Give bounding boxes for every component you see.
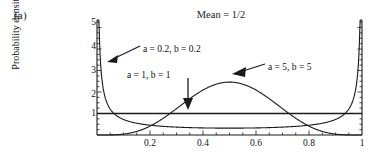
y-tick-label-2: 2 bbox=[82, 89, 96, 99]
y-axis-label-text: Probability density bbox=[10, 0, 21, 70]
density-curve-5 bbox=[97, 82, 362, 135]
arrow-head-beta-0-2 bbox=[107, 55, 118, 63]
x-tick-label-0-8: 0.8 bbox=[294, 138, 324, 148]
y-axis-label: Probability density f(x) bbox=[10, 0, 21, 84]
y-tick-label-1: 1 bbox=[82, 108, 96, 118]
x-tick-label-0-6: 0.6 bbox=[241, 138, 271, 148]
x-tick-label-1: 1 bbox=[347, 138, 377, 148]
y-tick-label-3: 3 bbox=[82, 65, 96, 75]
annot-beta-5: a = 5, b = 5 bbox=[268, 62, 311, 72]
y-tick-label-4: 4 bbox=[82, 41, 96, 51]
annot-beta-1: a = 1, b = 1 bbox=[127, 70, 170, 80]
y-tick-label-5: 5 bbox=[82, 17, 96, 27]
chart-title: Mean = 1/2 bbox=[0, 9, 382, 20]
arrow-line-beta-0-2 bbox=[113, 46, 140, 59]
arrow-head-beta-1 bbox=[183, 98, 193, 110]
arrow-head-beta-5 bbox=[232, 67, 246, 77]
x-tick-label-0-4: 0.4 bbox=[188, 138, 218, 148]
plot-canvas bbox=[0, 0, 382, 156]
x-tick-label-0-2: 0.2 bbox=[135, 138, 165, 148]
annot-beta-0-2: a = 0.2, b = 0.2 bbox=[143, 44, 201, 54]
arrow-line-beta-5 bbox=[243, 64, 265, 71]
beta-distribution-figure: (a) Mean = 1/2 Probability density f(x) … bbox=[0, 0, 382, 156]
